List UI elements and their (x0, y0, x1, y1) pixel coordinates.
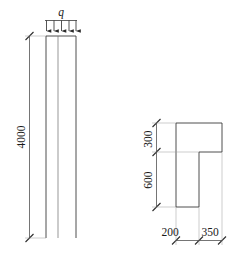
dimension-label-300: 300 (142, 130, 154, 148)
dimension-label-200: 200 (161, 226, 179, 238)
column-elevation-group: q 4000 (15, 6, 77, 242)
load-arrows-group (47, 21, 77, 32)
l-section-outline (176, 123, 222, 207)
dimension-label-600: 600 (142, 171, 154, 189)
technical-drawing-svg: q 4000 (0, 0, 239, 256)
dimension-label-350: 350 (201, 226, 219, 238)
cross-section-group: 300 600 200 350 (142, 119, 226, 245)
drawing-canvas: q 4000 (0, 0, 239, 256)
load-label-q: q (58, 6, 64, 19)
dimension-label-4000: 4000 (15, 125, 27, 148)
